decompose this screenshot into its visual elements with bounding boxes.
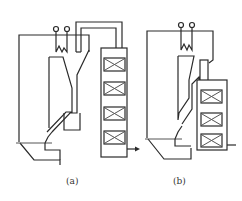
furnace-hopper-b [148, 139, 191, 159]
bottom-step-a [45, 143, 60, 160]
bottom-step-b [175, 139, 191, 146]
drum-a1 [54, 27, 59, 32]
seal-leg-a [45, 132, 52, 143]
panel-b [145, 23, 236, 160]
drum-a2 [65, 27, 70, 32]
boiler-diagram [0, 0, 242, 201]
furnace-hopper-a [20, 143, 60, 165]
panel-a [16, 22, 140, 165]
caption-b: (b) [173, 176, 186, 186]
drum-b1 [179, 23, 184, 28]
cyclone-a [47, 50, 89, 132]
caption-a: (a) [66, 176, 78, 186]
arrow-right-icon [135, 147, 140, 152]
heat-exchangers-b [201, 90, 222, 147]
seal-leg-b [175, 126, 182, 139]
furnace-outline-a [19, 35, 89, 142]
drum-b2 [190, 23, 195, 28]
downcomer-a [64, 113, 80, 130]
